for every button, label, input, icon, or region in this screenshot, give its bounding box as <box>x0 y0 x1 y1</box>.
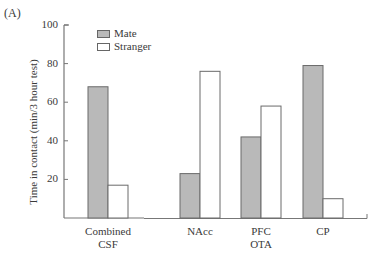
legend-item-mate: Mate <box>97 27 151 40</box>
legend-label-mate: Mate <box>114 27 137 40</box>
legend-label-stranger: Stranger <box>114 40 151 53</box>
bar-stranger-3 <box>323 199 343 218</box>
x-category-label: CombinedCSF <box>73 225 143 251</box>
bar-mate-1 <box>180 174 200 218</box>
bar-mate-3 <box>303 66 323 218</box>
panel-label: (A) <box>4 6 21 21</box>
bar-mate-2 <box>241 137 261 218</box>
y-tick-label: 80 <box>34 57 58 69</box>
y-tick-label: 20 <box>34 172 58 184</box>
bar-stranger-0 <box>108 185 128 218</box>
x-category-label: PFCOTA <box>226 225 296 251</box>
x-category-label: NAcc <box>165 225 235 251</box>
x-category-label: CP <box>288 225 358 251</box>
y-tick-label: 60 <box>34 95 58 107</box>
mate-swatch-icon <box>97 30 110 38</box>
y-tick-label: 100 <box>34 18 58 30</box>
legend: Mate Stranger <box>97 27 151 53</box>
bar-stranger-1 <box>200 71 220 218</box>
bar-stranger-2 <box>261 106 281 218</box>
bar-mate-0 <box>88 87 108 218</box>
legend-item-stranger: Stranger <box>97 40 151 53</box>
y-tick-label: 40 <box>34 134 58 146</box>
stranger-swatch-icon <box>97 43 110 51</box>
bar-chart <box>0 0 383 259</box>
